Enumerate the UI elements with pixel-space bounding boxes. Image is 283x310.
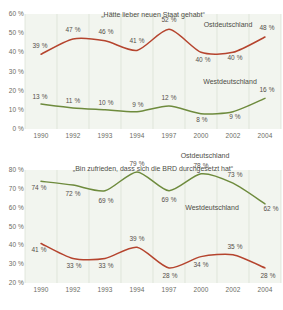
y-tick-label: 60 %	[9, 10, 24, 17]
y-tick-label: 30 %	[9, 260, 24, 267]
data-label: 47 %	[65, 26, 80, 33]
data-label: 40 %	[195, 56, 210, 63]
data-label: 46 %	[98, 28, 113, 35]
x-tick-label: 1990	[34, 286, 49, 293]
figure-root: 0 %10 %20 %30 %40 %50 %60 % 199019921993…	[0, 0, 283, 310]
y-tick-label: 50 %	[9, 223, 24, 230]
y-tick-label: 30 %	[9, 68, 24, 75]
x-tick-label: 1992	[66, 286, 81, 293]
data-label: 12 %	[161, 94, 176, 101]
data-label: 28 %	[260, 272, 275, 279]
y-tick-label: 40 %	[9, 48, 24, 55]
data-label: 79 %	[129, 160, 144, 167]
data-label: 72 %	[65, 190, 80, 197]
x-tick-label: 2004	[258, 286, 273, 293]
y-tick-label: 10 %	[9, 106, 24, 113]
x-tick-label: 1997	[162, 286, 177, 293]
y-tick-label: 50 %	[9, 29, 24, 36]
data-label: 41 %	[31, 246, 46, 253]
data-label: 41 %	[129, 37, 144, 44]
data-label: 16 %	[259, 86, 274, 93]
series-label-westdeutschland: Westdeutschland	[203, 78, 257, 85]
data-label: 8 %	[196, 116, 208, 123]
y-tick-label: 40 %	[9, 241, 24, 248]
x-tick-label: 1994	[130, 286, 145, 293]
x-tick-label: 1994	[130, 132, 145, 139]
data-label: 35 %	[227, 243, 242, 250]
data-label: 33 %	[66, 262, 81, 269]
data-label: 9 %	[132, 101, 144, 108]
x-tick-label: 2002	[226, 286, 241, 293]
data-label: 62 %	[263, 205, 278, 212]
x-tick-label: 1997	[162, 132, 177, 139]
data-label: 34 %	[193, 261, 208, 268]
y-tick-label: 70 %	[9, 185, 24, 192]
x-tick-label: 2002	[226, 132, 241, 139]
y-tick-label: 20 %	[9, 279, 24, 286]
data-label: 40 %	[227, 54, 242, 61]
data-label: 9 %	[229, 113, 241, 120]
y-tick-label: 60 %	[9, 204, 24, 211]
data-label: 10 %	[98, 99, 113, 106]
series-label-ostdeutschland: Ostdeutschland	[181, 152, 230, 159]
y-tick-label: 0 %	[12, 125, 24, 132]
x-tick-label: 1993	[98, 286, 113, 293]
x-tick-label: 1992	[66, 132, 81, 139]
x-tick-label: 2004	[258, 132, 273, 139]
chart-1-title: „Hätte lieber neuen Staat gehabt“	[101, 11, 205, 18]
series-label-westdeutschland: Westdeutschland	[185, 204, 239, 211]
data-label: 69 %	[161, 196, 176, 203]
data-label: 78 %	[193, 162, 208, 169]
y-tick-label: 20 %	[9, 87, 24, 94]
x-tick-label: 1993	[98, 132, 113, 139]
data-label: 28 %	[162, 272, 177, 279]
data-label: 74 %	[31, 184, 46, 191]
chart-2-title: „Bin zufrieden, dass sich die BRD durchg…	[73, 165, 233, 172]
data-label: 11 %	[66, 97, 81, 104]
chart-2: 20 %30 %40 %50 %60 %70 %80 % 19901992199…	[0, 156, 283, 310]
x-tick-label: 1990	[34, 132, 49, 139]
data-label: 39 %	[32, 42, 47, 49]
data-label: 33 %	[98, 262, 113, 269]
data-label: 52 %	[161, 16, 176, 23]
y-tick-label: 80 %	[9, 166, 24, 173]
series-label-ostdeutschland: Ostdeutschland	[204, 21, 253, 28]
data-label: 39 %	[129, 235, 144, 242]
x-tick-label: 2000	[194, 286, 209, 293]
data-label: 13 %	[32, 93, 47, 100]
chart-1: 0 %10 %20 %30 %40 %50 %60 % 199019921993…	[0, 0, 283, 152]
data-label: 73 %	[227, 171, 242, 178]
data-label: 48 %	[259, 24, 274, 31]
x-tick-label: 2000	[194, 132, 209, 139]
data-label: 69 %	[98, 197, 113, 204]
